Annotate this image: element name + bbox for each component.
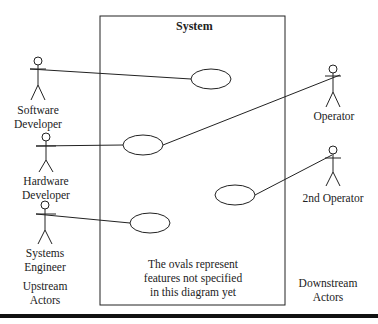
actor-2nd-operator-icon (325, 146, 341, 186)
association-2nd-operator (255, 155, 332, 195)
actor-hardware-developer-icon (36, 133, 56, 172)
bottom-rule (0, 314, 378, 318)
association-software-developer (30, 69, 191, 79)
actor-operator-icon (325, 65, 341, 107)
system-title: System (176, 19, 213, 34)
use-case-oval-2 (123, 135, 163, 155)
ovals-note: The ovals represent features not specifi… (108, 257, 278, 299)
use-case-oval-3 (215, 185, 255, 205)
association-systems-engineer (36, 214, 130, 223)
actor-label-2nd-operator: 2nd Operator (295, 191, 371, 205)
downstream-actors-label: Downstream Actors (288, 276, 368, 304)
actor-label-systems-engineer: Systems Engineer (9, 246, 81, 274)
actor-label-software-developer: Software Developer (2, 103, 74, 131)
upstream-actors-label: Upstream Actors (9, 279, 81, 307)
actor-label-operator: Operator (298, 109, 370, 123)
actor-software-developer-icon (30, 57, 46, 100)
actor-systems-engineer-icon (36, 201, 56, 244)
use-case-oval-1 (191, 69, 231, 89)
use-case-oval-4 (130, 213, 170, 233)
actor-label-hardware-developer: Hardware Developer (10, 174, 82, 202)
